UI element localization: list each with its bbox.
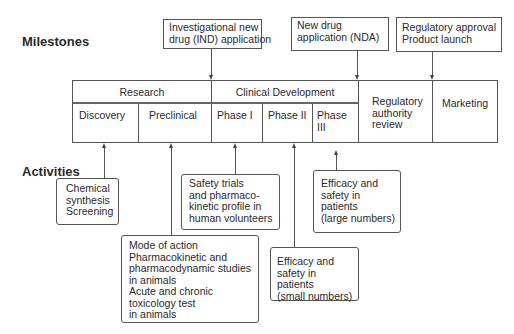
stage-phase-2: Phase II	[263, 104, 313, 142]
preclinical-connector-line	[171, 147, 172, 235]
milestone-text: application (NDA)	[297, 32, 383, 44]
milestone-ind-box: Investigational new drug (IND) applicati…	[163, 19, 262, 49]
milestones-label: Milestones	[22, 34, 89, 49]
activity-text: Mode of action	[129, 240, 258, 252]
stage-regulatory-review: Regulatory authority review	[359, 81, 433, 142]
phase2-connector-line	[294, 147, 295, 247]
development-stages-table: Research Clinical Development Discovery …	[72, 80, 498, 143]
activity-text: (large numbers)	[321, 213, 400, 225]
stages-top-row: Research Clinical Development	[73, 81, 359, 104]
activity-text: patients	[277, 279, 358, 291]
activity-phase2-box: Efficacy and safety in patients (small n…	[270, 247, 359, 301]
activity-text: human volunteers	[189, 213, 279, 225]
milestone-text: Product launch	[402, 34, 496, 46]
milestone-approval-box: Regulatory approval Product launch	[396, 17, 502, 52]
stage-clinical-development: Clinical Development	[212, 81, 359, 102]
milestone-text: Investigational new	[169, 22, 256, 34]
regulatory-text: review	[372, 119, 432, 131]
milestone-nda-box: New drug application (NDA)	[291, 17, 389, 51]
nda-connector-line	[357, 51, 358, 76]
phase1-connector-line	[235, 147, 236, 174]
stage-phase-1: Phase I	[212, 104, 263, 142]
stages-bottom-row: Discovery Preclinical Phase I Phase II P…	[73, 104, 359, 142]
activity-text: patients	[321, 201, 400, 213]
activity-text: Efficacy and	[321, 178, 400, 190]
milestone-text: drug (IND) application	[169, 34, 256, 46]
stage-discovery: Discovery	[73, 104, 139, 142]
activity-text: Acute and chronic	[129, 286, 258, 298]
activity-text: kinetic profile in	[189, 201, 279, 213]
milestone-text: New drug	[297, 20, 383, 32]
activity-discovery-box: Chemical synthesis Screening	[56, 178, 119, 225]
activity-text: Chemical	[66, 183, 118, 195]
stage-preclinical: Preclinical	[139, 104, 212, 142]
activities-label: Activities	[22, 164, 80, 179]
activity-text: Safety trials	[189, 178, 279, 190]
discovery-connector-line	[104, 147, 105, 178]
activity-text: pharmacodynamic studies	[129, 263, 258, 275]
activity-phase3-box: Efficacy and safety in patients (large n…	[313, 170, 401, 233]
phase3-connector-line	[336, 154, 337, 170]
stage-phase-3: Phase III	[313, 104, 359, 142]
activity-text: (small numbers)	[277, 291, 358, 303]
activity-text: in animals	[129, 309, 258, 321]
approval-connector-line	[432, 52, 433, 76]
stage-research: Research	[73, 81, 212, 102]
stage-marketing: Marketing	[433, 81, 497, 142]
milestone-text: Regulatory approval	[402, 22, 496, 34]
activity-phase1-box: Safety trials and pharmaco- kinetic prof…	[181, 174, 280, 230]
activity-preclinical-box: Mode of action Pharmacokinetic and pharm…	[121, 235, 259, 323]
regulatory-text: Regulatory	[372, 96, 432, 108]
activity-text: Screening	[66, 206, 118, 218]
activity-text: Efficacy and	[277, 256, 358, 268]
ind-connector-line	[211, 49, 212, 76]
